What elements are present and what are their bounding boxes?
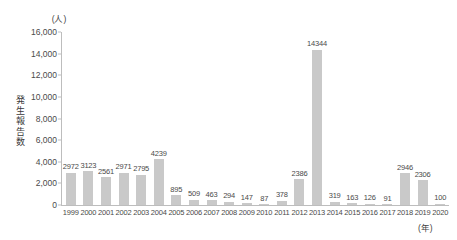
bar-value-label: 3123 — [80, 161, 96, 170]
y-axis-tick-label: 0 — [52, 200, 57, 210]
bar-value-label: 2386 — [292, 169, 308, 178]
y-axis-title-char-2: 生 — [13, 106, 27, 117]
bar-column: 294 — [220, 32, 238, 205]
y-axis-title-char-3: 報 — [13, 116, 27, 127]
x-axis-tick-label: 2003 — [133, 208, 149, 217]
bar-chart: (人) 発 生 報 告 数 02,0004,0006,0008,00010,00… — [0, 0, 457, 240]
bar-column: 378 — [273, 32, 291, 205]
bar-value-label: 2795 — [133, 164, 149, 173]
bar-column: 509 — [185, 32, 203, 205]
y-axis-tick-label: 16,000 — [31, 27, 57, 37]
y-axis-tick-mark — [58, 118, 61, 119]
y-axis-tick-mark — [58, 183, 61, 184]
x-axis-tick-label: 2004 — [151, 208, 167, 217]
bar-column: 163 — [343, 32, 361, 205]
bar-value-label: 163 — [346, 193, 358, 202]
x-axis-tick-label: 2014 — [327, 208, 343, 217]
x-axis-tick-label: 2016 — [362, 208, 378, 217]
bar-column: 2306 — [414, 32, 432, 205]
bar — [207, 200, 217, 205]
x-axis-line — [61, 205, 449, 206]
bar-column: 126 — [361, 32, 379, 205]
bar-value-label: 319 — [329, 191, 341, 200]
y-axis-title-char-5: 数 — [13, 137, 27, 148]
bar — [259, 204, 269, 205]
bar — [83, 171, 93, 205]
y-axis-tick-label: 14,000 — [31, 49, 57, 59]
y-axis-tick-label: 10,000 — [31, 92, 57, 102]
bar-value-label: 147 — [241, 193, 253, 202]
x-axis-tick-label: 2017 — [379, 208, 395, 217]
y-axis-tick-mark — [58, 32, 61, 33]
x-axis-tick-label: 2019 — [415, 208, 431, 217]
bar-column: 2971 — [115, 32, 133, 205]
bar-value-label: 2306 — [415, 170, 431, 179]
bar — [294, 179, 304, 205]
bar-value-label: 14344 — [307, 39, 327, 48]
bar-column: 2946 — [396, 32, 414, 205]
bar-column: 2972 — [62, 32, 80, 205]
x-axis-unit-label: (年) — [418, 221, 433, 233]
bar — [224, 202, 234, 205]
bar — [330, 202, 340, 205]
bar-value-label: 2946 — [397, 163, 413, 172]
x-axis-tick-label: 2002 — [116, 208, 132, 217]
bar-column: 3123 — [80, 32, 98, 205]
x-axis-tick-label: 2006 — [186, 208, 202, 217]
x-axis-tick-label: 2013 — [309, 208, 325, 217]
bar — [435, 204, 445, 205]
bar — [171, 195, 181, 205]
y-axis-unit-label: (人) — [38, 12, 80, 24]
bar-value-label: 895 — [170, 185, 182, 194]
y-axis-tick-mark — [58, 205, 61, 206]
y-axis-title: 発 生 報 告 数 — [13, 95, 27, 148]
bar-column: 895 — [168, 32, 186, 205]
y-axis-tick-mark — [58, 75, 61, 76]
x-axis-tick-label: 2009 — [239, 208, 255, 217]
bar-value-label: 2561 — [98, 167, 114, 176]
bar — [400, 173, 410, 205]
bar-value-label: 91 — [383, 194, 391, 203]
bar — [189, 200, 199, 206]
bar — [365, 204, 375, 205]
bar-value-label: 4239 — [151, 149, 167, 158]
bar-column: 2386 — [291, 32, 309, 205]
x-axis-tick-label: 2008 — [221, 208, 237, 217]
x-axis-tick-label: 2001 — [98, 208, 114, 217]
bar — [242, 203, 252, 205]
bar-column: 147 — [238, 32, 256, 205]
bar-value-label: 509 — [188, 189, 200, 198]
bar — [277, 201, 287, 205]
y-axis-tick-label: 2,000 — [36, 178, 57, 188]
bar — [136, 175, 146, 205]
x-axis-tick-label: 2020 — [432, 208, 448, 217]
bar — [66, 173, 76, 205]
x-axis-tick-label: 2011 — [274, 208, 289, 217]
bar-value-label: 463 — [206, 190, 218, 199]
bar — [382, 204, 392, 205]
y-axis-tick-label: 6,000 — [36, 135, 57, 145]
x-axis-tick-label: 2012 — [292, 208, 308, 217]
bar-column: 463 — [203, 32, 221, 205]
bar-column: 91 — [379, 32, 397, 205]
bar-value-label: 100 — [434, 193, 446, 202]
y-axis-title-char-4: 告 — [13, 127, 27, 138]
bar-column: 2561 — [97, 32, 115, 205]
bar-value-label: 126 — [364, 193, 376, 202]
x-axis-tick-label: 2005 — [168, 208, 184, 217]
bar-series: 2972312325612971279542398955094632941478… — [62, 32, 449, 205]
y-axis-tick-mark — [58, 140, 61, 141]
bar — [418, 180, 428, 205]
bar-column: 4239 — [150, 32, 168, 205]
y-axis-tick-label: 8,000 — [36, 114, 57, 124]
x-axis-tick-label: 2000 — [80, 208, 96, 217]
bar — [119, 173, 129, 205]
y-axis-tick-mark — [58, 161, 61, 162]
bar-column: 100 — [431, 32, 449, 205]
y-axis-title-char-1: 発 — [13, 95, 27, 106]
y-axis-tick-label: 4,000 — [36, 157, 57, 167]
bar-value-label: 87 — [260, 194, 268, 203]
bar-value-label: 378 — [276, 190, 288, 199]
bar — [154, 159, 164, 205]
bar-value-label: 2971 — [116, 162, 132, 171]
